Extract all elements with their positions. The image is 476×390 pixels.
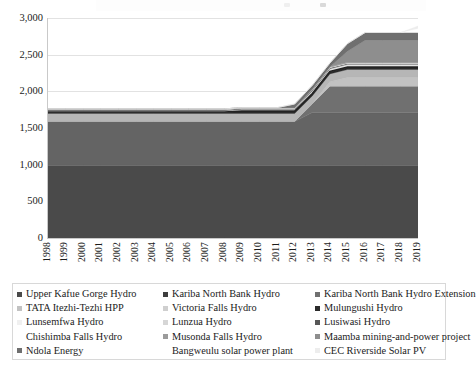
legend-item[interactable]: Upper Kafue Gorge Hydro <box>17 287 163 301</box>
legend-item[interactable]: Chishimba Falls Hydro <box>17 330 163 344</box>
x-axis-tick-label: 2003 <box>130 242 141 262</box>
x-axis-tick-label: 2007 <box>200 242 211 262</box>
legend-label: Upper Kafue Gorge Hydro <box>26 288 136 300</box>
legend-swatch-icon <box>163 320 168 325</box>
x-axis-tick-label: 1998 <box>42 242 53 262</box>
legend-label: Ndola Energy <box>26 345 83 357</box>
stacked-area-series <box>48 18 418 238</box>
x-axis-tick-label: 2019 <box>412 242 423 262</box>
legend-swatch-icon <box>17 292 22 297</box>
legend-swatch-icon <box>163 306 168 311</box>
x-axis-tick-label: 2014 <box>323 242 334 262</box>
y-axis-tick-label: 1,500 <box>0 123 43 133</box>
x-axis-tick-label: 2013 <box>306 242 317 262</box>
legend-swatch-icon <box>17 320 22 325</box>
x-axis-tick-label: 2017 <box>376 242 387 262</box>
x-axis-tick-label: 2009 <box>235 242 246 262</box>
legend-label: Kariba North Bank Hydro Extension <box>324 288 476 300</box>
x-axis-tick-label: 2002 <box>112 242 123 262</box>
legend-label: Lunsemfwa Hydro <box>26 316 104 328</box>
x-axis-tick-label: 2015 <box>341 242 352 262</box>
x-axis-tick-label: 2010 <box>253 242 264 262</box>
legend-swatch-icon <box>315 348 320 353</box>
x-axis-tick-label: 2004 <box>147 242 158 262</box>
x-axis-tick-label: 1999 <box>59 242 70 262</box>
legend-label: Lunzua Hydro <box>172 316 232 328</box>
area-series <box>48 165 418 238</box>
x-axis-tick-label: 2012 <box>288 242 299 262</box>
x-axis-tick-label: 2008 <box>218 242 229 262</box>
legend-label: Kariba North Bank Hydro <box>172 288 280 300</box>
x-axis-tick-label: 2000 <box>77 242 88 262</box>
legend-item[interactable]: CEC Riverside Solar PV <box>315 344 443 358</box>
legend-swatch-icon <box>17 334 22 339</box>
y-axis-tick-label: 0 <box>0 233 43 243</box>
x-axis-tick-label: 2006 <box>182 242 193 262</box>
legend-swatch-icon <box>315 320 320 325</box>
y-axis-tick-label: 2,500 <box>0 50 43 60</box>
legend-swatch-icon <box>17 348 22 353</box>
legend-item[interactable]: Ndola Energy <box>17 344 163 358</box>
x-axis-tick-label: 2018 <box>394 242 405 262</box>
legend-item[interactable]: Bangweulu solar power plant <box>163 344 315 358</box>
legend-swatch-icon <box>163 334 168 339</box>
legend-swatch-icon <box>163 292 168 297</box>
legend-label: Mulungushi Hydro <box>324 302 403 314</box>
legend-label: Lusiwasi Hydro <box>324 316 390 328</box>
x-axis-line <box>47 238 418 239</box>
x-axis-tick-label: 2001 <box>94 242 105 262</box>
legend-swatch-icon <box>315 306 320 311</box>
legend-label: TATA Itezhi-Tezhi HPP <box>26 302 124 314</box>
legend-item[interactable]: Kariba North Bank Hydro <box>163 287 315 301</box>
legend-label: Maamba mining-and-power project <box>324 331 470 343</box>
legend-item[interactable]: Kariba North Bank Hydro Extension <box>315 287 443 301</box>
legend-swatch-icon <box>17 306 22 311</box>
top-scan-artifact <box>96 0 426 11</box>
legend-swatch-icon <box>315 334 320 339</box>
plot-area <box>47 18 418 238</box>
y-axis-tick-label: 500 <box>0 196 43 206</box>
legend-label: Bangweulu solar power plant <box>172 345 293 357</box>
legend-swatch-icon <box>315 292 320 297</box>
legend-label: Chishimba Falls Hydro <box>26 331 122 343</box>
y-axis-tick-label: 1,000 <box>0 160 43 170</box>
legend-item[interactable]: Victoria Falls Hydro <box>163 301 315 315</box>
legend-label: CEC Riverside Solar PV <box>324 345 426 357</box>
legend-item[interactable]: Mulungushi Hydro <box>315 301 443 315</box>
legend-item[interactable]: Lunzua Hydro <box>163 315 315 329</box>
x-axis-tick-label: 2011 <box>271 242 282 262</box>
legend-item[interactable]: TATA Itezhi-Tezhi HPP <box>17 301 163 315</box>
y-axis-tick-label: 2,000 <box>0 86 43 96</box>
legend: Upper Kafue Gorge HydroKariba North Bank… <box>12 283 446 360</box>
legend-grid: Upper Kafue Gorge HydroKariba North Bank… <box>17 287 443 358</box>
legend-label: Musonda Falls Hydro <box>172 331 262 343</box>
legend-item[interactable]: Lunsemfwa Hydro <box>17 315 163 329</box>
y-axis-tick-label: 3,000 <box>0 13 43 23</box>
x-axis-tick-label: 2005 <box>165 242 176 262</box>
legend-swatch-icon <box>163 348 168 353</box>
legend-item[interactable]: Musonda Falls Hydro <box>163 330 315 344</box>
legend-item[interactable]: Maamba mining-and-power project <box>315 330 443 344</box>
x-axis-tick-label: 2016 <box>359 242 370 262</box>
legend-label: Victoria Falls Hydro <box>172 302 257 314</box>
legend-item[interactable]: Lusiwasi Hydro <box>315 315 443 329</box>
